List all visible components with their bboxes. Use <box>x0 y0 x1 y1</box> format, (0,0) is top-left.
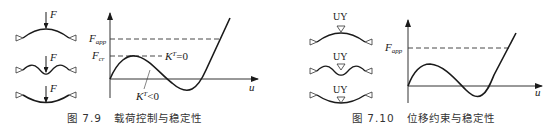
constraint-label: UY <box>333 51 347 62</box>
figure-canvas: F F F u Fapp Fcr KT=0 <box>0 0 551 132</box>
force-label: F <box>49 8 57 20</box>
beam-wavy: UY <box>310 51 372 75</box>
kt-neg-label: KT<0 <box>135 90 159 102</box>
constraint-label: UY <box>333 84 347 95</box>
figure-caption: 图 7.10位移约束与稳定性 <box>352 112 495 124</box>
support-left-icon <box>16 92 23 98</box>
support-right-icon <box>69 67 76 73</box>
f-app-label: Fapp <box>88 32 107 46</box>
f-cr-label: Fcr <box>91 49 105 63</box>
x-axis-label: u <box>249 81 255 93</box>
support-left-icon <box>310 92 317 98</box>
beam-arched-up: UY <box>310 11 372 45</box>
load-displacement-plot: u Fapp <box>384 20 542 103</box>
beam-arched-up: F <box>16 8 76 41</box>
support-left-icon <box>16 35 23 41</box>
support-right-icon <box>365 68 372 74</box>
support-left-icon <box>310 39 317 45</box>
load-displacement-plot: u Fapp Fcr KT=0 KT<0 <box>88 13 258 102</box>
x-axis-label: u <box>535 86 541 98</box>
support-right-icon <box>365 92 372 98</box>
constraint-label: UY <box>333 11 347 22</box>
figure-caption: 图 7.9载荷控制与稳定性 <box>67 112 202 124</box>
support-right-icon <box>69 35 76 41</box>
force-label: F <box>49 51 57 63</box>
load-curve <box>408 33 516 96</box>
figure-7-9: F F F u Fapp Fcr KT=0 <box>16 8 258 124</box>
support-left-icon <box>16 67 23 73</box>
kt-zero-label: KT=0 <box>164 50 188 62</box>
support-right-icon <box>365 39 372 45</box>
force-label: F <box>49 82 57 94</box>
displacement-constraint-icon <box>337 97 345 103</box>
f-app-label: Fapp <box>384 41 403 55</box>
support-right-icon <box>69 92 76 98</box>
beam-arched-down: F <box>16 82 76 103</box>
support-left-icon <box>310 68 317 74</box>
beam-arched-down: UY <box>310 84 372 103</box>
displacement-constraint-icon <box>337 26 345 32</box>
figure-7-10: UY UY UY u Fapp 图 7.10位移约束与稳定性 <box>310 11 542 124</box>
displacement-constraint-icon <box>337 64 345 70</box>
beam-wavy: F <box>16 51 76 74</box>
